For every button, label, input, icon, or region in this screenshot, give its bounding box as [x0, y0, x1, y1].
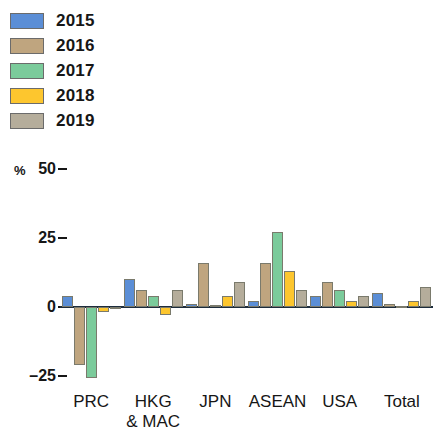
bar-group	[60, 155, 122, 395]
x-axis-label-line1: JPN	[199, 392, 231, 411]
legend-item-label: 2016	[56, 37, 95, 54]
bar[interactable]	[234, 282, 245, 307]
y-axis-tick-label: 25	[0, 229, 56, 247]
bar[interactable]	[210, 305, 221, 307]
bar[interactable]	[310, 296, 321, 307]
x-axis-tick-label: PRC	[60, 392, 122, 412]
x-axis-tick-label: ASEAN	[247, 392, 309, 412]
x-axis-label-line1: ASEAN	[249, 392, 307, 411]
x-axis-label-line1: PRC	[73, 392, 109, 411]
x-axis-label-line1: Total	[384, 392, 420, 411]
legend-item-label: 2017	[56, 62, 95, 79]
bars-layer	[60, 155, 433, 395]
bar[interactable]	[172, 290, 183, 307]
x-axis-labels: PRCHKG& MACJPNASEANUSATotal	[60, 392, 433, 430]
legend-item: 2017	[10, 58, 180, 83]
bar[interactable]	[160, 307, 171, 315]
bar[interactable]	[420, 287, 431, 306]
bar-group	[247, 155, 309, 395]
bar[interactable]	[284, 271, 295, 307]
chart-legend: 2015 2016 2017 2018 2019	[10, 8, 180, 133]
bar[interactable]	[408, 301, 419, 307]
bar[interactable]	[62, 296, 73, 307]
bar[interactable]	[322, 282, 333, 307]
bar-group	[371, 155, 433, 395]
bar[interactable]	[74, 307, 85, 365]
legend-item-label: 2019	[56, 112, 95, 129]
legend-item: 2018	[10, 83, 180, 108]
bar-group	[122, 155, 184, 395]
x-axis-tick-label: USA	[309, 392, 371, 412]
bar[interactable]	[248, 301, 259, 307]
bar[interactable]	[98, 307, 109, 313]
bar[interactable]	[396, 306, 407, 308]
x-axis-tick-label: HKG& MAC	[122, 392, 184, 430]
legend-item-label: 2018	[56, 87, 95, 104]
y-axis-tick-label: –25	[0, 367, 56, 385]
bar[interactable]	[110, 307, 121, 310]
x-axis-label-line1: HKG	[135, 392, 172, 411]
legend-item: 2019	[10, 108, 180, 133]
legend-swatch-icon	[10, 113, 44, 129]
bar[interactable]	[86, 307, 97, 379]
legend-item: 2015	[10, 8, 180, 33]
chart-plot-area: 50250–25	[0, 155, 433, 395]
x-axis-tick-label: Total	[371, 392, 433, 412]
bar[interactable]	[136, 290, 147, 307]
bar[interactable]	[148, 296, 159, 307]
bar[interactable]	[384, 304, 395, 307]
legend-item-label: 2015	[56, 12, 95, 29]
bar-group	[309, 155, 371, 395]
bar[interactable]	[334, 290, 345, 307]
bar[interactable]	[222, 296, 233, 307]
bar[interactable]	[198, 263, 209, 307]
bar[interactable]	[272, 232, 283, 306]
bar[interactable]	[124, 279, 135, 307]
legend-swatch-icon	[10, 38, 44, 54]
y-axis-tick-label: 0	[0, 298, 56, 316]
bar[interactable]	[372, 293, 383, 307]
bar[interactable]	[186, 304, 197, 307]
legend-swatch-icon	[10, 63, 44, 79]
legend-swatch-icon	[10, 88, 44, 104]
x-axis-label-line1: USA	[322, 392, 357, 411]
bar[interactable]	[296, 290, 307, 307]
legend-swatch-icon	[10, 13, 44, 29]
bar[interactable]	[358, 296, 369, 307]
bar[interactable]	[260, 263, 271, 307]
bar[interactable]	[346, 301, 357, 307]
y-axis-tick-label: 50	[0, 160, 56, 178]
bar-group	[184, 155, 246, 395]
x-axis-label-line2: & MAC	[122, 412, 184, 430]
x-axis-tick-label: JPN	[184, 392, 246, 412]
legend-item: 2016	[10, 33, 180, 58]
